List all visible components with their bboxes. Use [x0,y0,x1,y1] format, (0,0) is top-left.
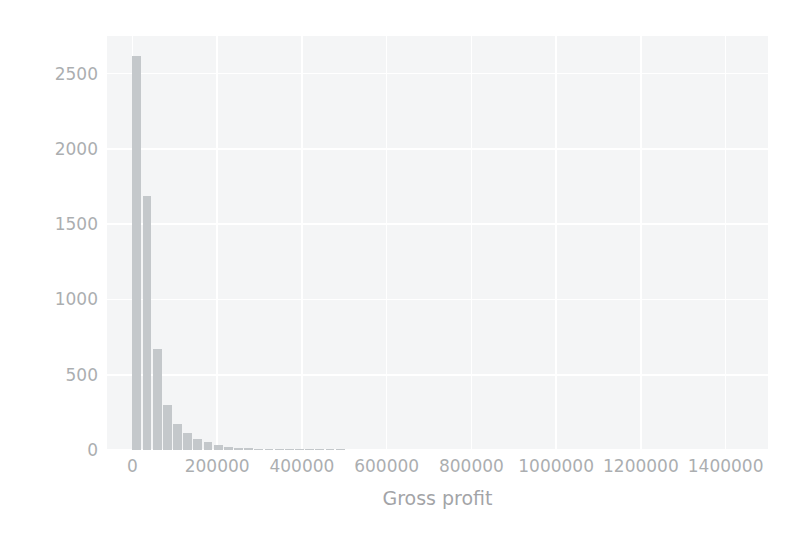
histogram-bar [254,449,263,450]
gridline-x-200000 [216,36,218,450]
gridline-x-1000000 [555,36,557,450]
y-tick-label: 2000 [2,140,98,157]
y-tick-label: 0 [2,442,98,459]
y-tick-label: 500 [2,366,98,383]
histogram-bar [132,56,141,450]
histogram-bar [244,448,253,450]
histogram-bar [143,196,152,450]
histogram-bar [275,449,284,450]
histogram-bar [295,449,304,450]
histogram-bar [163,405,172,450]
histogram-bar [173,424,182,450]
gridline-x-400000 [301,36,303,450]
histogram-bar [315,449,324,450]
gridline-x-600000 [386,36,388,450]
x-tick-label: 1400000 [688,458,764,475]
x-tick-label: 200000 [185,458,250,475]
gridline-y-2000 [107,148,768,150]
plot-area [107,36,768,450]
gridline-y-1000 [107,299,768,301]
histogram-bar [193,439,202,450]
gridline-y-1500 [107,223,768,225]
gridline-y-500 [107,374,768,376]
histogram-bar [153,349,162,450]
histogram-bar [265,449,274,450]
histogram-bar [336,449,345,450]
gridline-x-1400000 [725,36,727,450]
y-tick-label: 1000 [2,291,98,308]
histogram-bar [234,448,243,450]
histogram-bar [183,433,192,450]
histogram-bar [305,449,314,450]
x-axis-label: Gross profit [107,489,768,508]
histogram-figure: 05001000150020002500 0200000400000600000… [0,0,799,553]
x-tick-label: 400000 [269,458,334,475]
histogram-bar [214,445,223,450]
gridline-x-800000 [471,36,473,450]
x-tick-label: 800000 [439,458,504,475]
x-tick-label: 0 [127,458,138,475]
histogram-bar [285,449,294,450]
histogram-bar [204,442,213,450]
x-tick-label: 600000 [354,458,419,475]
x-tick-label: 1000000 [518,458,594,475]
gridline-y-2500 [107,73,768,75]
gridline-x-1200000 [640,36,642,450]
y-tick-label: 1500 [2,216,98,233]
x-tick-label: 1200000 [603,458,679,475]
histogram-bar [224,447,233,450]
y-axis-tick-labels: 05001000150020002500 [0,0,98,553]
histogram-bar [326,449,335,450]
y-tick-label: 2500 [2,65,98,82]
